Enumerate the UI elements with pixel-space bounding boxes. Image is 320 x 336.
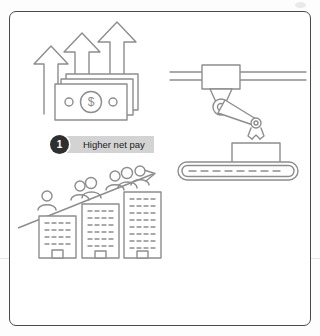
- dollar-sign-glyph: $: [88, 95, 95, 109]
- infographic-figure: $ Higher net pay 1: [0, 0, 320, 336]
- label-band-1: Higher net pay: [58, 136, 154, 153]
- money-with-rising-arrows-icon: $: [28, 18, 150, 116]
- step-badge-1: 1: [50, 135, 69, 154]
- panel-industry-growth: Rapid growth and development of industri…: [168, 62, 308, 242]
- panel-higher-net-pay: $ Higher net pay 1: [20, 18, 150, 138]
- panel-urban-population: Increasing number of people living in ci…: [16, 160, 166, 260]
- robotic-arm-conveyor-icon: [168, 62, 308, 174]
- label-text-1: Higher net pay: [58, 139, 145, 151]
- growing-city-population-icon: [16, 160, 166, 260]
- scan-artifact-blob: [295, 2, 306, 8]
